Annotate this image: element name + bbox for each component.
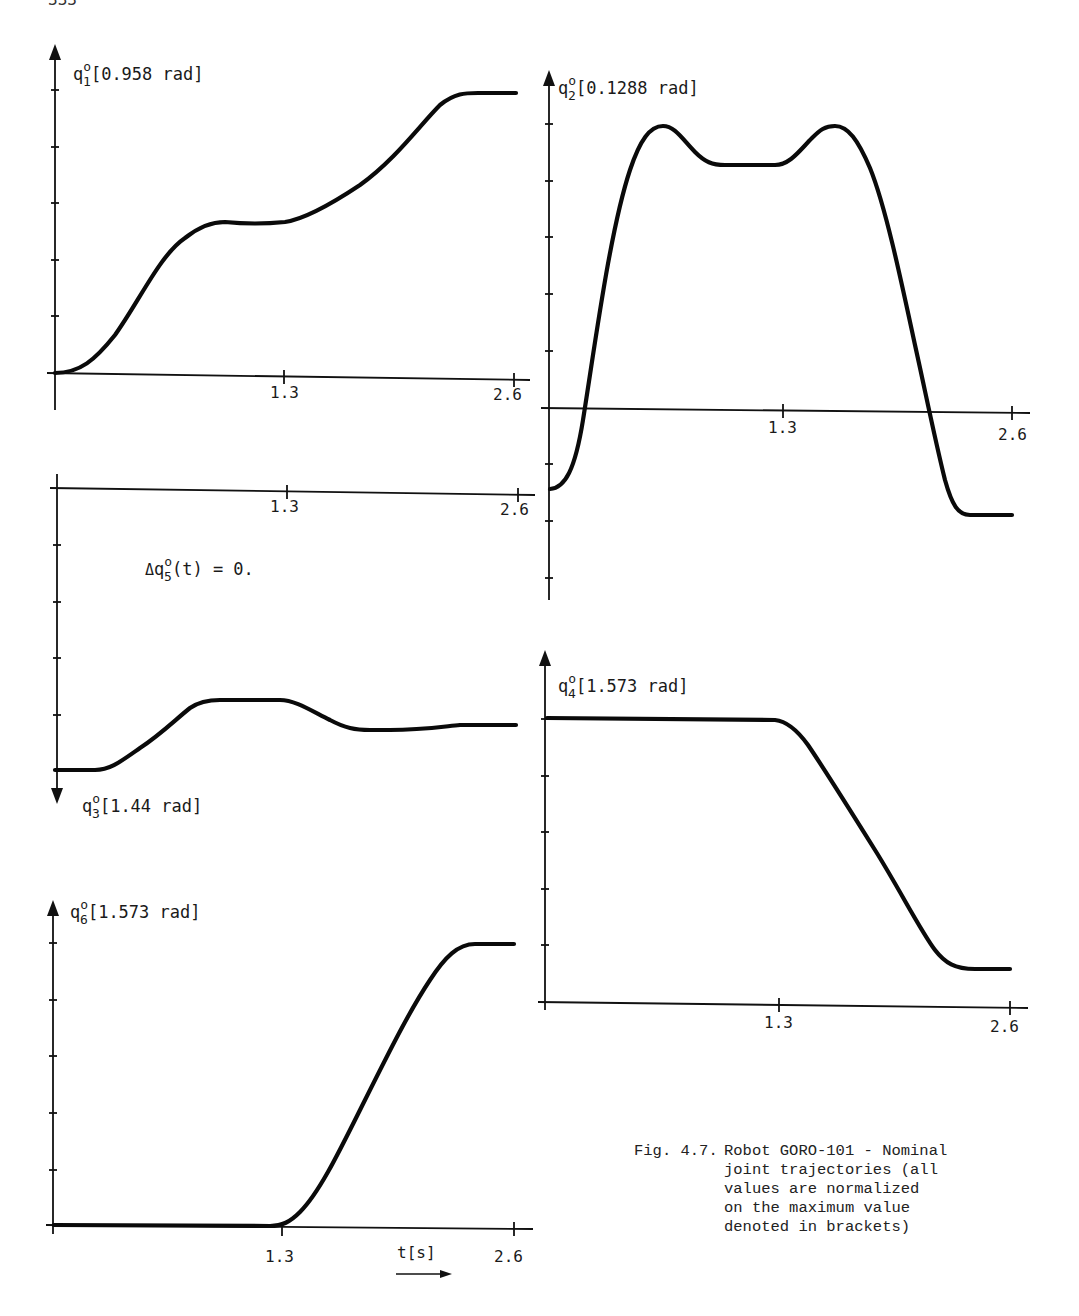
x-tick-label-2.6: 2.6 (500, 500, 529, 519)
caption-line-2: joint trajectories (all (724, 1161, 938, 1179)
ylabel-q6: qo6[1.573 rad] (70, 897, 201, 927)
x-tick-label-1.3: 1.3 (265, 1247, 294, 1266)
x-tick-label-1.3: 1.3 (768, 418, 797, 437)
y-axis-arrow-down-icon (51, 788, 63, 804)
curve-q2 (550, 126, 1012, 515)
time-arrowhead-icon (440, 1270, 452, 1278)
x-axis-q2 (541, 408, 1030, 413)
x-tick-label-2.6: 2.6 (998, 425, 1027, 444)
x-axis-q1 (47, 373, 530, 380)
caption-line-3: values are normalized (724, 1180, 919, 1198)
figure-4-7: qo1[0.958 rad] 1.3 2.6 qo2[0.1288 rad] 1… (0, 0, 1079, 1316)
y-axis-arrow-icon (49, 44, 61, 60)
plot-q3: Δqo5(t) = 0. qo3[1.44 rad] 1.3 2.6 (50, 474, 535, 821)
plot-q1: qo1[0.958 rad] 1.3 2.6 (47, 44, 530, 410)
ylabel-q2: qo2[0.1288 rad] (558, 73, 699, 103)
ylabel-q4: qo4[1.573 rad] (558, 671, 689, 701)
curve-q4 (547, 718, 1010, 969)
figure-caption: Fig. 4.7. Robot GORO-101 - Nominal joint… (634, 1142, 947, 1236)
caption-label: Fig. 4.7. (634, 1142, 718, 1160)
caption-line-5: denoted in brackets) (724, 1218, 910, 1236)
x-tick-label-2.6: 2.6 (990, 1017, 1019, 1036)
caption-line-1: Robot GORO-101 - Nominal (724, 1142, 947, 1160)
ylabel-q3: qo3[1.44 rad] (82, 791, 202, 821)
x-axis-q3 (50, 488, 535, 495)
curve-q6 (54, 944, 514, 1226)
annotation-q5: Δqo5(t) = 0. (145, 554, 254, 584)
plot-q6: qo6[1.573 rad] 1.3 2.6 t[s] (46, 897, 533, 1278)
y-axis-arrow-icon (539, 650, 551, 666)
x-axis-label-time: t[s] (397, 1243, 436, 1262)
x-tick-label-2.6: 2.6 (494, 1247, 523, 1266)
curve-q1 (55, 93, 516, 373)
x-tick-label-2.6: 2.6 (493, 385, 522, 404)
plot-q4: qo4[1.573 rad] 1.3 2.6 (538, 650, 1028, 1036)
x-tick-label-1.3: 1.3 (764, 1013, 793, 1032)
y-axis-arrow-icon (543, 70, 555, 86)
plot-q2: qo2[0.1288 rad] 1.3 2.6 (541, 70, 1030, 600)
y-axis-arrow-icon (47, 900, 59, 916)
x-tick-label-1.3: 1.3 (270, 383, 299, 402)
ylabel-q1: qo1[0.958 rad] (73, 59, 204, 89)
x-tick-label-1.3: 1.3 (270, 497, 299, 516)
caption-line-4: on the maximum value (724, 1199, 910, 1217)
x-axis-q4 (538, 1002, 1028, 1008)
curve-q3 (55, 700, 516, 770)
